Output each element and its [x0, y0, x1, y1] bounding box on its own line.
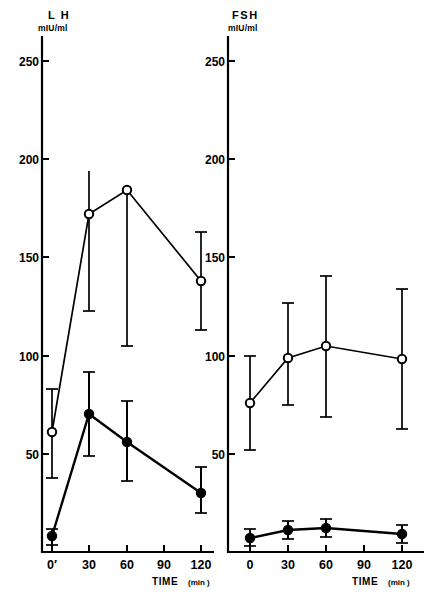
panel-fsh-open-errorbars	[244, 276, 408, 450]
data-point-filled	[245, 533, 254, 542]
panel-fsh: FSH mIU/ml 250 200 150 100 50	[205, 9, 424, 587]
data-point-filled	[321, 523, 330, 532]
data-point-filled	[397, 529, 406, 538]
data-point-open	[197, 277, 205, 285]
panel-lh-units: mIU/ml	[38, 23, 68, 33]
panel-fsh-ytick-250: 250	[205, 55, 225, 69]
panel-fsh-xaxis-caption: TIME	[352, 576, 378, 587]
data-point-open	[123, 186, 131, 194]
data-point-filled	[84, 409, 93, 418]
panel-fsh-xtick-0: 0	[247, 558, 254, 572]
panel-fsh-xtick-90: 90	[357, 558, 371, 572]
panel-lh-xtick-60: 60	[120, 558, 134, 572]
data-point-filled	[122, 437, 131, 446]
data-point-open	[322, 342, 330, 350]
data-point-filled	[283, 525, 292, 534]
data-point-filled	[47, 531, 56, 540]
panel-lh-ytick-100: 100	[19, 350, 39, 364]
panel-lh-filled-errorbars	[46, 372, 207, 545]
panel-fsh-title: FSH	[232, 9, 259, 21]
data-point-filled	[196, 488, 205, 497]
data-point-open	[85, 210, 93, 218]
data-point-open	[246, 399, 254, 407]
panel-lh-ytick-50: 50	[26, 448, 40, 462]
figure-canvas: L H mIU/ml 250 200 150 100 50	[0, 0, 440, 597]
panel-lh-xtick-30: 30	[82, 558, 96, 572]
panel-lh-ytick-250: 250	[19, 55, 39, 69]
panel-lh-xaxis-caption: TIME	[152, 576, 178, 587]
panel-fsh-ytick-50: 50	[212, 448, 226, 462]
panel-lh-ytick-200: 200	[19, 153, 39, 167]
panel-lh-xtick-120: 120	[191, 558, 212, 572]
panel-lh-title: L H	[48, 9, 70, 21]
panel-lh-xtick-0: 0′	[47, 558, 57, 572]
panel-lh-ytick-150: 150	[19, 251, 39, 265]
panel-fsh-xtick-60: 60	[319, 558, 333, 572]
panel-fsh-ytick-150: 150	[205, 251, 225, 265]
panel-lh: L H mIU/ml 250 200 150 100 50	[19, 9, 214, 587]
panel-fsh-xtick-120: 120	[392, 558, 413, 572]
panel-fsh-units: mIU/ml	[228, 23, 258, 33]
panel-fsh-xtick-30: 30	[281, 558, 295, 572]
data-point-open	[284, 354, 292, 362]
panel-fsh-ytick-200: 200	[205, 153, 225, 167]
data-point-open	[48, 428, 56, 436]
panel-lh-xtick-90: 90	[157, 558, 171, 572]
data-point-open	[398, 355, 406, 363]
chart-svg: L H mIU/ml 250 200 150 100 50	[0, 0, 440, 597]
panel-fsh-xaxis-caption-units: (min )	[388, 578, 410, 587]
panel-fsh-ytick-100: 100	[205, 350, 225, 364]
panel-lh-xaxis-caption-units: (min )	[188, 578, 210, 587]
